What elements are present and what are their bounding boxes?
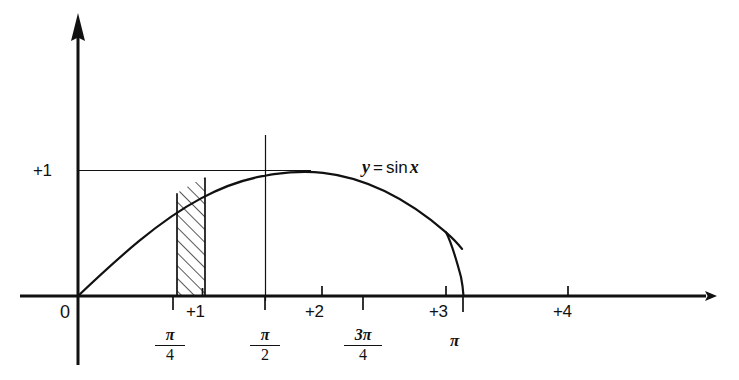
equation-variable-x: x bbox=[410, 157, 419, 177]
x-axis-label-pi: π bbox=[450, 331, 459, 351]
sine-curve bbox=[78, 172, 462, 296]
x-axis-label-plus-two: +2 bbox=[305, 303, 323, 320]
fraction-denominator: 4 bbox=[155, 346, 185, 364]
fraction-denominator: 2 bbox=[250, 346, 280, 364]
fraction-denominator: 4 bbox=[344, 346, 382, 364]
equation-label: y=sinx bbox=[362, 157, 419, 178]
equation-variable-y: y bbox=[362, 157, 370, 177]
x-axis-label-pi-over-two: π 2 bbox=[250, 327, 280, 364]
x-axis-label-plus-three: +3 bbox=[429, 303, 447, 320]
x-axis-label-plus-one: +1 bbox=[186, 303, 204, 320]
x-axis-label-plus-four: +4 bbox=[553, 303, 571, 320]
sine-graph-figure: +1 0 +1 +2 +3 +4 π 4 π 2 3π 4 π y=sinx bbox=[0, 0, 739, 380]
fraction-numerator: π bbox=[250, 327, 280, 345]
origin-label: 0 bbox=[60, 303, 70, 321]
x-axis-label-three-pi-over-four: 3π 4 bbox=[344, 327, 382, 364]
equation-function-sin: sin bbox=[386, 158, 410, 177]
y-axis-arrowhead bbox=[71, 13, 85, 41]
shaded-area-group bbox=[177, 178, 205, 296]
hatched-strip bbox=[177, 178, 205, 296]
fraction-numerator: 3π bbox=[344, 327, 382, 345]
x-axis-label-pi-over-four: π 4 bbox=[155, 327, 185, 364]
y-axis-label-plus-one: +1 bbox=[33, 162, 51, 179]
fraction-numerator: π bbox=[155, 327, 185, 345]
equation-equals-sign: = bbox=[370, 158, 386, 177]
plot-canvas bbox=[0, 0, 739, 380]
